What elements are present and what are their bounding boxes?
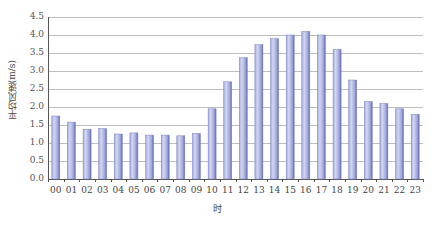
x-tick-label: 14 <box>267 185 283 195</box>
bar-05 <box>130 133 138 179</box>
x-tick-label: 08 <box>173 185 189 195</box>
x-tick-label: 09 <box>188 185 204 195</box>
bar-15 <box>286 35 294 179</box>
bar-09 <box>192 133 200 179</box>
x-tick-label: 00 <box>48 185 64 195</box>
x-tick-label: 10 <box>204 185 220 195</box>
x-tick-label: 16 <box>298 185 314 195</box>
bar-03 <box>99 129 107 179</box>
bar-23 <box>411 114 419 179</box>
bar-13 <box>255 45 263 179</box>
y-tick-label: 0.0 <box>12 173 44 183</box>
y-tick-label: 4.0 <box>12 29 44 39</box>
bar-22 <box>396 109 404 179</box>
x-tick-label: 13 <box>251 185 267 195</box>
bar-17 <box>317 35 325 179</box>
bar-01 <box>67 122 75 179</box>
bar-07 <box>161 135 169 179</box>
x-tick-label: 22 <box>392 185 408 195</box>
x-tick-label: 23 <box>407 185 423 195</box>
bar-11 <box>224 82 232 179</box>
bar-00 <box>52 116 60 179</box>
bar-18 <box>333 49 341 179</box>
y-tick-label: 2.5 <box>12 83 44 93</box>
x-tick-label: 06 <box>142 185 158 195</box>
x-tick-label: 02 <box>79 185 95 195</box>
y-tick-label: 3.5 <box>12 47 44 57</box>
x-tick-label: 20 <box>360 185 376 195</box>
x-tick-label: 05 <box>126 185 142 195</box>
x-tick-label: 19 <box>345 185 361 195</box>
y-tick-label: 1.0 <box>12 137 44 147</box>
y-tick-label: 2.0 <box>12 101 44 111</box>
x-tick-label: 18 <box>329 185 345 195</box>
bar-16 <box>302 31 310 179</box>
x-tick-label: 03 <box>95 185 111 195</box>
bar-06 <box>146 135 154 179</box>
y-tick-label: 4.5 <box>12 11 44 21</box>
x-tick-label: 12 <box>235 185 251 195</box>
x-tick-label: 17 <box>313 185 329 195</box>
bar-14 <box>271 39 279 179</box>
x-tick-label: 01 <box>63 185 79 195</box>
x-tick-label: 11 <box>220 185 236 195</box>
x-axis-label: 时 <box>0 202 434 215</box>
x-tick-label: 04 <box>110 185 126 195</box>
bar-20 <box>364 102 372 179</box>
bar-08 <box>177 136 185 179</box>
bar-04 <box>114 134 122 179</box>
x-tick-label: 07 <box>157 185 173 195</box>
y-tick-label: 0.5 <box>12 155 44 165</box>
bar-21 <box>380 103 388 179</box>
y-tick-label: 1.5 <box>12 119 44 129</box>
bar-12 <box>239 58 247 179</box>
bar-02 <box>83 129 91 179</box>
y-tick-label: 3.0 <box>12 65 44 75</box>
x-tick-label: 15 <box>282 185 298 195</box>
x-tick-label: 21 <box>376 185 392 195</box>
bar-10 <box>208 109 216 179</box>
wind-speed-bar-chart: 平均风速(m/s) 0.00.51.01.52.02.53.03.54.04.5… <box>0 0 434 226</box>
bar-19 <box>349 80 357 179</box>
